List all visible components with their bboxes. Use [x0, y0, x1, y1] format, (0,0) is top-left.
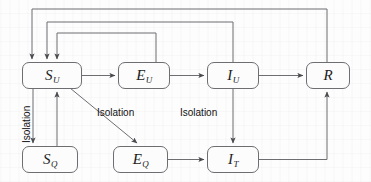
edge-feedback-eu-su	[57, 33, 156, 62]
edge-it-r	[259, 92, 327, 160]
node-it-label: IT	[228, 152, 238, 167]
node-eq-label: EQ	[133, 152, 149, 167]
edge-feedback-iu-su	[47, 22, 233, 62]
node-r-label: R	[323, 68, 332, 83]
edge-feedback-r-su	[32, 9, 327, 62]
node-eq[interactable]: EQ	[113, 146, 168, 173]
node-sq-label: SQ	[43, 152, 57, 167]
node-r[interactable]: R	[306, 62, 350, 89]
node-iu[interactable]: IU	[207, 62, 259, 89]
node-su-label: SU	[45, 68, 59, 83]
edge-label-isolation-su-sq: Isolation	[22, 106, 32, 143]
diagram-canvas: SU EU IU R SQ EQ IT Isolation Isolation …	[0, 0, 371, 182]
node-sq[interactable]: SQ	[22, 146, 78, 173]
edge-label-isolation-iu-it: Isolation	[180, 108, 217, 118]
node-su[interactable]: SU	[22, 62, 82, 89]
node-eu[interactable]: EU	[118, 62, 170, 89]
node-eu-label: EU	[136, 68, 152, 83]
node-iu-label: IU	[227, 68, 239, 83]
edge-label-isolation-su-eq: Isolation	[97, 108, 134, 118]
node-it[interactable]: IT	[207, 146, 259, 173]
